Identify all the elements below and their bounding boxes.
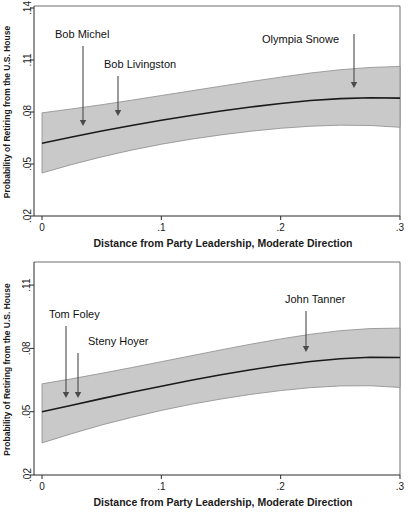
y-tick-label: .08 (22, 105, 33, 119)
annotation-label: Bob Livingston (104, 58, 176, 70)
y-tick-label: .14 (22, 1, 33, 15)
annotation-label: Steny Hoyer (88, 335, 149, 347)
y-tick-label: .02 (22, 468, 33, 482)
plot-area-democrats: .02.05.08.110.1.2.3Distance from Party L… (2, 262, 405, 508)
annotation-label: Bob Michel (55, 28, 109, 40)
annotation-label: Olympia Snowe (262, 33, 339, 45)
x-tick-label: .3 (396, 481, 405, 492)
y-axis-title: Probability of Retiring from the U.S. Ho… (2, 283, 12, 456)
chart-svg-republicans: .02.05.08.11.140.1.2.3Distance from Part… (0, 0, 408, 259)
plot-area-republicans: .02.05.08.11.140.1.2.3Distance from Part… (2, 1, 405, 249)
confidence-interval-band (42, 66, 400, 173)
y-tick-label: .11 (22, 53, 33, 67)
annotation-label: John Tanner (285, 293, 346, 305)
annotation-label: Tom Foley (49, 308, 100, 320)
y-axis-title: Probability of Retiring from the U.S. Ho… (2, 26, 12, 199)
x-axis-title: Distance from Party Leadership, Moderate… (93, 237, 352, 249)
y-tick-label: .05 (22, 404, 33, 418)
chart-svg-democrats: .02.05.08.110.1.2.3Distance from Party L… (0, 259, 408, 518)
chart-panel-democrats: .02.05.08.110.1.2.3Distance from Party L… (0, 259, 408, 518)
chart-panel-republicans: .02.05.08.11.140.1.2.3Distance from Part… (0, 0, 408, 259)
x-tick-label: 0 (39, 222, 45, 233)
x-axis-title: Distance from Party Leadership, Moderate… (93, 496, 352, 508)
x-tick-label: .1 (157, 481, 166, 492)
x-tick-label: .3 (396, 222, 405, 233)
x-tick-label: .1 (157, 222, 166, 233)
y-tick-label: .11 (22, 278, 33, 292)
y-tick-label: .05 (22, 157, 33, 171)
figure-root: .02.05.08.11.140.1.2.3Distance from Part… (0, 0, 408, 518)
y-tick-label: .02 (22, 209, 33, 223)
y-tick-label: .08 (22, 341, 33, 355)
x-tick-label: 0 (39, 481, 45, 492)
x-tick-label: .2 (276, 481, 285, 492)
x-tick-label: .2 (276, 222, 285, 233)
